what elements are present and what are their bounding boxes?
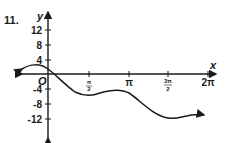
x-tick-pi-over-2-num: π — [87, 79, 92, 85]
y-tick-m12: -12 — [28, 114, 43, 125]
x-tick-3pi-over-2-den: 2 — [166, 86, 170, 92]
y-axis-label: y — [36, 10, 44, 22]
origin-label: O — [38, 75, 47, 87]
graph: 12 8 4 -4 -8 -12 O π 2 π 3π 2 2π x y — [0, 0, 227, 143]
y-tick-m8: -8 — [33, 99, 42, 110]
function-curve — [22, 65, 204, 118]
y-tick-12: 12 — [31, 25, 43, 36]
y-tick-8: 8 — [36, 40, 42, 51]
x-tick-pi: π — [125, 77, 133, 88]
x-tick-3pi-over-2-num: 3π — [164, 78, 172, 84]
x-axis-label: x — [209, 59, 217, 71]
x-tick-pi-over-2-den: 2 — [87, 86, 91, 92]
x-tick-2pi: 2π — [201, 77, 215, 88]
